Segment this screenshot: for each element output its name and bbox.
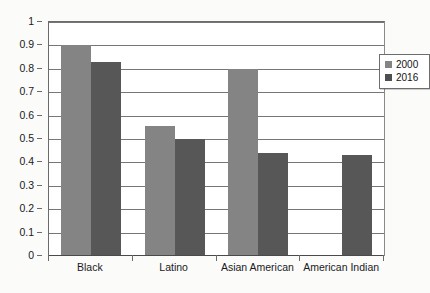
x-group-label-black: Black xyxy=(77,262,103,274)
y-tick-mark xyxy=(37,232,42,233)
y-tick-label: 0.5 xyxy=(0,133,34,144)
bar-2016-black xyxy=(91,62,121,256)
x-tick-mark xyxy=(132,255,133,261)
legend-swatch-2016-icon xyxy=(385,74,392,81)
legend-label-2016: 2016 xyxy=(396,73,418,83)
bar-2000-black xyxy=(61,45,91,256)
y-tick-mark xyxy=(37,68,42,69)
bar-2000-asian-american xyxy=(228,69,258,256)
y-tick-mark xyxy=(37,91,42,92)
bar-2000-latino xyxy=(145,126,175,256)
y-tick-label: 0 xyxy=(0,250,34,261)
x-tick-mark xyxy=(383,255,384,261)
legend-item-2000[interactable]: 2000 xyxy=(385,58,425,71)
legend-label-2000: 2000 xyxy=(396,60,418,70)
gridline xyxy=(49,22,384,23)
y-tick-mark xyxy=(37,208,42,209)
y-tick-mark xyxy=(37,21,42,22)
y-axis: 10.90.80.70.60.50.40.30.20.10 xyxy=(0,0,44,293)
y-tick-label: 0.3 xyxy=(0,180,34,191)
gridline xyxy=(49,45,384,46)
y-tick-label: 0.1 xyxy=(0,226,34,237)
bar-2016-asian-american xyxy=(258,153,288,256)
y-tick-mark xyxy=(37,115,42,116)
plot-area: 2000 2016 xyxy=(48,21,385,256)
y-tick-label: 0.8 xyxy=(0,63,34,74)
y-tick-mark xyxy=(37,138,42,139)
y-tick-mark xyxy=(37,185,42,186)
y-tick-mark xyxy=(37,161,42,162)
y-tick-mark xyxy=(37,44,42,45)
y-tick-label: 0.2 xyxy=(0,203,34,214)
legend-swatch-2000-icon xyxy=(385,61,392,68)
x-tick-mark xyxy=(216,255,217,261)
x-tick-mark xyxy=(48,255,49,261)
legend-item-2016[interactable]: 2016 xyxy=(385,71,425,84)
x-group-label-american-indian: American Indian xyxy=(303,262,379,274)
x-group-label-asian-american: Asian American xyxy=(221,262,294,274)
legend: 2000 2016 xyxy=(379,54,430,89)
bar-2016-latino xyxy=(175,139,205,256)
y-tick-label: 1 xyxy=(0,16,34,27)
y-tick-label: 0.4 xyxy=(0,156,34,167)
bar-2016-american-indian xyxy=(342,155,372,256)
y-tick-mark xyxy=(37,255,42,256)
y-tick-label: 0.9 xyxy=(0,39,34,50)
x-group-label-latino: Latino xyxy=(159,262,188,274)
y-tick-label: 0.6 xyxy=(0,109,34,120)
y-tick-label: 0.7 xyxy=(0,86,34,97)
x-tick-mark xyxy=(299,255,300,261)
